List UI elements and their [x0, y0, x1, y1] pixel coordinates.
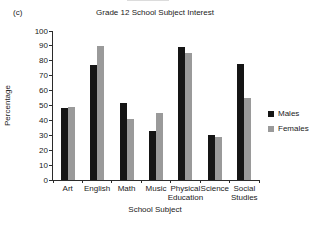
y-axis-title: Percentage — [2, 31, 14, 180]
bar-females-physical-education — [185, 53, 192, 180]
bar-males-english — [90, 65, 97, 180]
panel-label: (c) — [13, 8, 22, 17]
y-tick-label-90: 90 — [22, 41, 48, 50]
x-tick-2 — [111, 180, 112, 183]
top-crop-artifact — [127, 0, 169, 1]
legend-swatch-males — [268, 111, 274, 117]
x-tick-4 — [170, 180, 171, 183]
legend-item-females: Females — [268, 125, 309, 133]
y-tick-label-80: 80 — [22, 56, 48, 65]
chart-panel: (c) Grade 12 School Subject Interest Per… — [0, 0, 320, 226]
legend-item-males: Males — [268, 110, 309, 118]
bar-males-science — [208, 135, 215, 180]
y-tick-40 — [49, 120, 53, 121]
x-tick-0 — [53, 180, 54, 183]
bar-females-science — [215, 137, 222, 180]
x-tick-7 — [259, 180, 260, 183]
legend-label-females: Females — [278, 125, 309, 133]
y-tick-70 — [49, 75, 53, 76]
plot-area: 0102030405060708090100ArtEnglishMathMusi… — [52, 31, 259, 181]
y-tick-100 — [49, 31, 53, 32]
y-tick-label-20: 20 — [22, 146, 48, 155]
legend-swatch-females — [268, 126, 274, 132]
x-tick-6 — [229, 180, 230, 183]
y-tick-10 — [49, 165, 53, 166]
bar-males-art — [61, 108, 68, 180]
bar-males-music — [149, 131, 156, 180]
y-tick-label-40: 40 — [22, 116, 48, 125]
y-tick-30 — [49, 135, 53, 136]
y-tick-80 — [49, 60, 53, 61]
bar-females-art — [68, 107, 75, 180]
x-tick-5 — [200, 180, 201, 183]
y-tick-label-0: 0 — [22, 176, 48, 185]
legend-label-males: Males — [278, 110, 299, 118]
bar-males-physical-education — [178, 47, 185, 180]
bar-females-english — [97, 46, 104, 180]
bar-females-social-studies — [244, 98, 251, 180]
legend: MalesFemales — [268, 110, 309, 140]
y-tick-60 — [49, 90, 53, 91]
bar-females-math — [127, 119, 134, 180]
x-axis-title: School Subject — [52, 205, 258, 214]
y-tick-50 — [49, 105, 53, 106]
bar-females-music — [156, 113, 163, 180]
bar-males-social-studies — [237, 64, 244, 180]
y-tick-label-60: 60 — [22, 86, 48, 95]
y-tick-label-70: 70 — [22, 71, 48, 80]
y-tick-label-50: 50 — [22, 101, 48, 110]
bar-males-math — [120, 103, 127, 180]
y-tick-20 — [49, 150, 53, 151]
x-tick-3 — [141, 180, 142, 183]
y-tick-label-100: 100 — [22, 27, 48, 36]
y-tick-label-30: 30 — [22, 131, 48, 140]
x-tick-1 — [82, 180, 83, 183]
y-tick-90 — [49, 45, 53, 46]
x-category-label-social-studies: Social Studies — [222, 184, 266, 202]
chart-title: Grade 12 School Subject Interest — [52, 8, 258, 17]
y-tick-label-10: 10 — [22, 161, 48, 170]
